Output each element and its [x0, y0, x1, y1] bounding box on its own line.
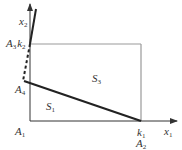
x2-axis-label: x2 — [19, 16, 27, 29]
x1-axis-label: x1 — [164, 126, 172, 139]
a1-label: A1 — [15, 126, 25, 139]
line-a4-k1 — [24, 81, 141, 121]
a2-label: A2 — [136, 138, 146, 150]
s1-label: S1 — [46, 101, 55, 114]
a4-label: A4 — [15, 84, 25, 97]
s3-label: S3 — [92, 73, 101, 86]
diagram-canvas: x2 A3 k2 A4 S3 S1 A1 k1 A2 x1 — [0, 0, 182, 150]
line-k2-up — [30, 9, 36, 44]
a3-k2-label: A3 k2 — [6, 38, 26, 51]
